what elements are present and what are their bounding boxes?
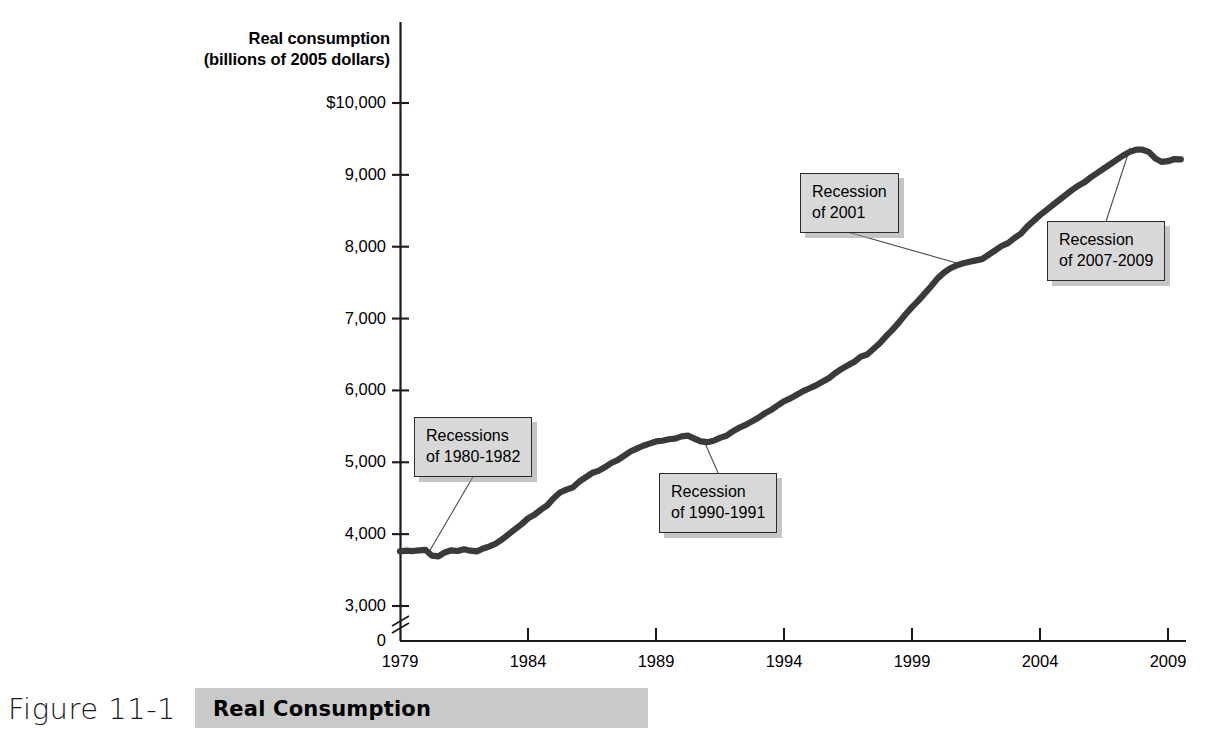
x-tick-marks — [528, 628, 1168, 641]
x-tick-label: 2004 — [1000, 652, 1080, 671]
y-tick-label: 7,000 — [276, 309, 386, 328]
annotation-line1: Recessions — [426, 425, 520, 446]
y-tick-label: 5,000 — [276, 452, 386, 471]
y-tick-label: 3,000 — [276, 596, 386, 615]
annotation-line2: of 1980-1982 — [426, 446, 520, 467]
annotation-line2: of 2001 — [812, 202, 887, 223]
annotation-leader-lines — [429, 148, 1130, 552]
y-tick-label: 4,000 — [276, 524, 386, 543]
x-tick-label: 1999 — [872, 652, 952, 671]
y-tick-label: 8,000 — [276, 237, 386, 256]
x-tick-label: 1989 — [616, 652, 696, 671]
y-axis-title: Real consumption (billions of 2005 dolla… — [150, 28, 390, 70]
figure-caption-row: Figure 11-1 Real Consumption — [0, 684, 1210, 732]
y-tick-label: 9,000 — [276, 165, 386, 184]
annotation-line1: Recession — [812, 181, 887, 202]
figure-number-label: Figure 11-1 — [8, 692, 176, 726]
annotation-line2: of 1990-1991 — [671, 502, 765, 523]
annotation-line1: Recession — [671, 481, 765, 502]
annotation-recession-2001: Recessionof 2001 — [800, 173, 899, 233]
y-axis-title-line2: (billions of 2005 dollars) — [150, 49, 390, 70]
annotation-recession-2007-2009: Recessionof 2007-2009 — [1047, 221, 1165, 281]
figure-title-label: Real Consumption — [213, 697, 431, 721]
x-tick-label: 1984 — [488, 652, 568, 671]
x-tick-label: 1994 — [744, 652, 824, 671]
annotation-line1: Recession — [1059, 229, 1153, 250]
annotation-line2: of 2007-2009 — [1059, 250, 1153, 271]
annotation-recession-1990-1991: Recessionof 1990-1991 — [659, 473, 777, 533]
chart-canvas — [0, 0, 1210, 732]
x-tick-label: 2009 — [1128, 652, 1208, 671]
x-tick-label: 1979 — [360, 652, 440, 671]
y-tick-label: 0 — [276, 631, 386, 650]
figure-container: Real consumption (billions of 2005 dolla… — [0, 0, 1210, 732]
annotation-recessions-1980-1982: Recessionsof 1980-1982 — [414, 417, 532, 477]
y-axis-title-line1: Real consumption — [150, 28, 390, 49]
y-tick-label: 6,000 — [276, 380, 386, 399]
axes-group — [392, 22, 1186, 641]
y-tick-label: $10,000 — [276, 93, 386, 112]
data-series-group — [400, 150, 1181, 557]
